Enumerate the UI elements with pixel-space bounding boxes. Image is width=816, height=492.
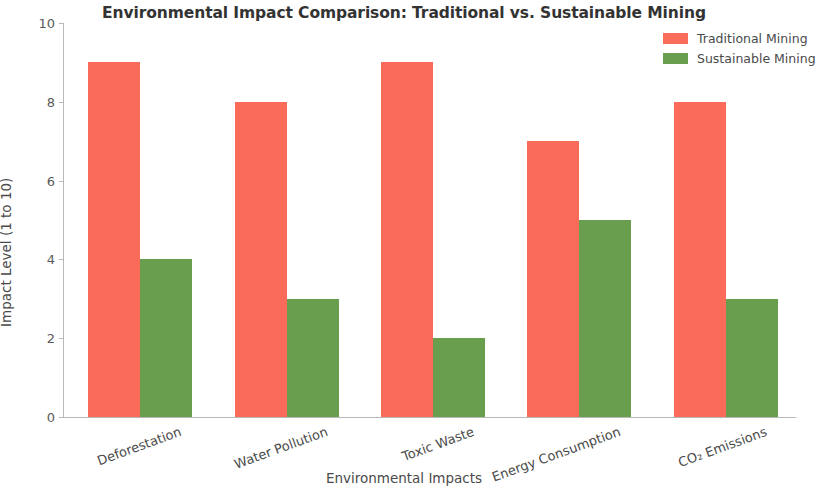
x-tick-label-text: CO₂ Emissions — [676, 424, 769, 470]
y-tick-label: 10 — [38, 16, 55, 31]
y-tick-mark — [59, 181, 63, 182]
bar — [433, 338, 485, 417]
y-axis-title-text: Impact Level (1 to 10) — [0, 127, 14, 327]
legend-item[interactable]: Sustainable Mining — [663, 51, 816, 66]
y-tick-mark — [59, 23, 63, 24]
y-tick-mark — [59, 259, 63, 260]
bar — [140, 259, 192, 417]
bar — [88, 62, 140, 417]
y-axis-title: Impact Level (1 to 10) — [0, 0, 14, 127]
legend-item[interactable]: Traditional Mining — [663, 31, 816, 46]
legend-swatch-icon — [663, 53, 688, 64]
y-tick-mark — [59, 417, 63, 418]
y-tick-mark — [59, 102, 63, 103]
x-tick-label-text: Toxic Waste — [400, 424, 476, 464]
bar — [674, 102, 726, 417]
chart-title: Environmental Impact Comparison: Traditi… — [0, 4, 808, 22]
bar — [726, 299, 778, 417]
legend-label: Traditional Mining — [697, 31, 808, 46]
legend-swatch-icon — [663, 33, 688, 44]
x-tick-label-text: Water Pollution — [232, 424, 329, 472]
y-tick-label: 4 — [47, 252, 55, 267]
bar — [579, 220, 631, 417]
x-tick-label-text: Deforestation — [95, 424, 183, 468]
plot-area: 0246810 — [63, 23, 795, 417]
y-tick-label: 0 — [47, 410, 55, 425]
y-tick-mark — [59, 338, 63, 339]
bar — [287, 299, 339, 417]
legend-label: Sustainable Mining — [697, 51, 816, 66]
chart-legend: Traditional MiningSustainable Mining — [663, 31, 816, 66]
y-tick-label: 6 — [47, 173, 55, 188]
y-tick-label: 2 — [47, 331, 55, 346]
x-axis-line — [63, 417, 796, 418]
y-tick-label: 8 — [47, 94, 55, 109]
bar — [235, 102, 287, 417]
bar — [381, 62, 433, 417]
bar — [527, 141, 579, 417]
x-axis-title: Environmental Impacts — [0, 470, 808, 486]
